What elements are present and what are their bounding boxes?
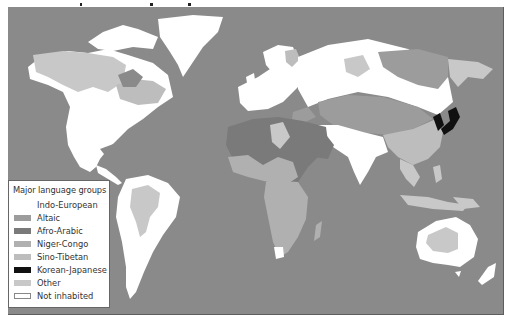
- swatch-not-inhabited: [14, 293, 31, 299]
- map-legend: Major language groups Indo-European Alta…: [8, 180, 110, 308]
- swatch-afro-arabic: [14, 228, 31, 234]
- legend-label: Korean-Japanese: [37, 265, 107, 275]
- legend-item-sino-tibetan: Sino-Tibetan: [14, 251, 88, 263]
- legend-item-niger-congo: Niger-Congo: [14, 238, 88, 250]
- legend-item-indo-european: Indo-European: [14, 199, 98, 211]
- legend-label: Sino-Tibetan: [37, 252, 88, 262]
- legend-label: Afro-Arabic: [37, 226, 83, 236]
- legend-item-afro-arabic: Afro-Arabic: [14, 225, 83, 237]
- legend-label: Other: [37, 278, 61, 288]
- legend-item-korean-japanese: Korean-Japanese: [14, 264, 107, 276]
- swatch-indo-european: [14, 202, 31, 208]
- legend-item-not-inhabited: Not inhabited: [14, 290, 93, 302]
- swatch-sino-tibetan: [14, 254, 31, 260]
- map-title-clipped: [0, 0, 510, 7]
- legend-label: Niger-Congo: [37, 239, 88, 249]
- swatch-niger-congo: [14, 241, 31, 247]
- legend-item-altaic: Altaic: [14, 212, 60, 224]
- legend-label: Indo-European: [37, 200, 98, 210]
- swatch-altaic: [14, 215, 31, 221]
- legend-item-other: Other: [14, 277, 61, 289]
- legend-label: Altaic: [37, 213, 60, 223]
- swatch-korean-japanese: [14, 267, 31, 273]
- swatch-other: [14, 280, 31, 286]
- title-descender-marks: [10, 0, 270, 7]
- legend-label: Not inhabited: [37, 291, 93, 301]
- legend-title: Major language groups: [13, 185, 106, 195]
